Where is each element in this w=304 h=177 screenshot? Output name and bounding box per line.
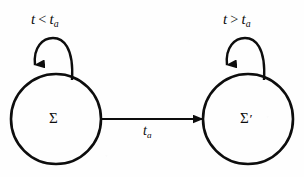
state-transition-figure: t<ta t>ta Σ Σ′ ta: [0, 0, 304, 177]
self-loop-condition-label-sigma: t<ta: [31, 12, 59, 29]
transition-label: ta: [143, 124, 152, 140]
self-loop-condition-label-sigma-prime: t>ta: [223, 12, 251, 29]
transition-subscript: a: [147, 130, 152, 140]
condition-subscript-left: a: [54, 18, 59, 29]
prime-mark: ′: [249, 111, 252, 126]
state-label-sigma: Σ: [49, 111, 58, 126]
condition-bound-left: t: [49, 11, 53, 27]
condition-subscript-right: a: [246, 18, 251, 29]
state-symbol-sigma: Σ: [49, 110, 58, 126]
state-label-sigma-prime: Σ′: [240, 111, 252, 126]
condition-relation-right: >: [227, 11, 241, 27]
condition-bound-right: t: [241, 11, 245, 27]
condition-relation-left: <: [35, 11, 49, 27]
state-symbol-sigma-prime: Σ: [240, 110, 249, 126]
